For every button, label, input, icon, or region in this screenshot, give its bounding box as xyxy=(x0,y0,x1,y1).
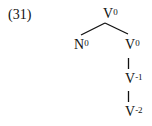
branch-left xyxy=(81,23,105,35)
branch-right xyxy=(105,23,128,34)
tree-branches xyxy=(0,0,152,126)
